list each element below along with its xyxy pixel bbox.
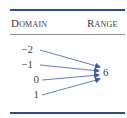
arrow-icon [42,75,99,80]
arrow-icon [42,79,100,95]
arrow-icon [40,50,100,67]
bottom-rule [10,112,125,114]
arrow-icon [40,65,99,71]
mapping-arrows [0,0,127,118]
